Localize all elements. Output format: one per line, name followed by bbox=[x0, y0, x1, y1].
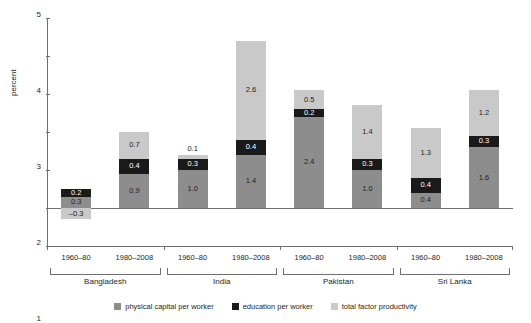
segment-value-label: 0.3 bbox=[479, 137, 489, 145]
segment-value-label: 1.6 bbox=[479, 174, 489, 182]
group-bracket bbox=[283, 268, 394, 275]
category-tick bbox=[512, 246, 513, 250]
stacked-bar-chart: –1012345 0.30.2–0.30.90.40.71.00.30.11.4… bbox=[0, 0, 531, 323]
segment-value-label: 0.2 bbox=[71, 189, 81, 197]
legend-item[interactable]: physical capital per worker bbox=[114, 302, 213, 311]
segment-value-label: 0.4 bbox=[420, 181, 430, 189]
plot-area: –1012345 0.30.2–0.30.90.40.71.00.30.11.4… bbox=[47, 18, 513, 246]
bar-segment[interactable]: 0.3 bbox=[469, 136, 499, 147]
segment-value-label: 0.9 bbox=[129, 187, 139, 195]
y-axis-title: percent bbox=[9, 69, 18, 96]
category-tick bbox=[397, 246, 398, 250]
period-label: 1960–80 bbox=[280, 253, 338, 262]
segment-value-label: 1.4 bbox=[246, 177, 256, 185]
group-label: Sri Lanka bbox=[400, 277, 511, 287]
segment-value-label: 0.1 bbox=[178, 145, 208, 153]
bar-segment[interactable]: 1.4 bbox=[352, 105, 382, 158]
period-label: 1980–2008 bbox=[455, 253, 513, 262]
period-label: 1960–80 bbox=[47, 253, 105, 262]
category-tick bbox=[47, 246, 48, 250]
period-label: 1980–2008 bbox=[222, 253, 280, 262]
legend-swatch-icon bbox=[232, 303, 239, 310]
y-tick: 4 bbox=[46, 56, 50, 57]
legend-item[interactable]: education per worker bbox=[232, 302, 313, 311]
y-tick-label: 3 bbox=[37, 166, 41, 167]
segment-value-label: 1.0 bbox=[187, 185, 197, 193]
bar-stack[interactable]: 0.30.2–0.3 bbox=[61, 18, 91, 246]
bar-segment[interactable]: 0.4 bbox=[411, 178, 441, 193]
legend-swatch-icon bbox=[331, 303, 338, 310]
y-tick: 0 bbox=[46, 208, 50, 209]
bar-segment[interactable]: 0.4 bbox=[236, 140, 266, 155]
bar-segment[interactable]: 0.7 bbox=[119, 132, 149, 159]
bar-segment[interactable]: 0.2 bbox=[294, 109, 324, 117]
bar-stack[interactable]: 0.40.41.3 bbox=[411, 18, 441, 246]
y-tick: 3 bbox=[46, 94, 50, 95]
bar-segment[interactable]: 1.0 bbox=[352, 170, 382, 208]
zero-baseline bbox=[47, 208, 513, 209]
bar-segment[interactable] bbox=[178, 155, 208, 159]
segment-value-label: 1.4 bbox=[362, 128, 372, 136]
bar-segment[interactable]: 0.5 bbox=[294, 90, 324, 109]
bar-segment[interactable]: 0.3 bbox=[178, 159, 208, 170]
bar-segment[interactable]: 1.4 bbox=[236, 155, 266, 208]
bar-stack[interactable]: 2.40.20.5 bbox=[294, 18, 324, 246]
bar-segment[interactable]: 0.4 bbox=[411, 193, 441, 208]
y-tick-label: 2 bbox=[37, 242, 41, 243]
legend-label: physical capital per worker bbox=[125, 302, 213, 311]
legend-label: total factor productivity bbox=[342, 302, 417, 311]
segment-value-label: 0.3 bbox=[362, 160, 372, 168]
segment-value-label: 1.2 bbox=[479, 109, 489, 117]
bar-stack[interactable]: 0.90.40.7 bbox=[119, 18, 149, 246]
bar-stack[interactable]: 1.00.31.4 bbox=[352, 18, 382, 246]
group-bracket bbox=[400, 268, 511, 275]
bar-stack[interactable]: 1.40.42.6 bbox=[236, 18, 266, 246]
bar-segment[interactable]: 2.4 bbox=[294, 117, 324, 208]
segment-value-label: 0.5 bbox=[304, 96, 314, 104]
segment-value-label: 0.4 bbox=[246, 143, 256, 151]
bar-segment[interactable]: 0.4 bbox=[119, 159, 149, 174]
legend-item[interactable]: total factor productivity bbox=[331, 302, 417, 311]
legend-label: education per worker bbox=[243, 302, 313, 311]
bar-segment[interactable]: 1.3 bbox=[411, 128, 441, 177]
segment-value-label: 0.4 bbox=[420, 196, 430, 204]
bar-segment[interactable]: 2.6 bbox=[236, 41, 266, 140]
y-tick-label: 5 bbox=[37, 14, 41, 15]
y-tick: 2 bbox=[46, 132, 50, 133]
bar-segment[interactable]: 0.9 bbox=[119, 174, 149, 208]
bar-segment[interactable]: 0.2 bbox=[61, 189, 91, 197]
bar-segment[interactable]: –0.3 bbox=[61, 208, 91, 219]
segment-value-label: 2.4 bbox=[304, 158, 314, 166]
segment-value-label: –0.3 bbox=[69, 210, 84, 218]
segment-value-label: 0.2 bbox=[304, 109, 314, 117]
bar-segment[interactable]: 1.0 bbox=[178, 170, 208, 208]
y-tick-label: 4 bbox=[37, 90, 41, 91]
segment-value-label: 0.3 bbox=[71, 198, 81, 206]
segment-value-label: 2.6 bbox=[246, 86, 256, 94]
y-tick-label: 1 bbox=[37, 318, 41, 319]
group-label: Pakistan bbox=[283, 277, 394, 287]
segment-value-label: 0.7 bbox=[129, 141, 139, 149]
period-label: 1980–2008 bbox=[105, 253, 163, 262]
bar-segment[interactable]: 0.3 bbox=[352, 159, 382, 170]
chart-legend: physical capital per workereducation per… bbox=[0, 302, 531, 311]
group-bracket bbox=[50, 268, 161, 275]
group-bracket bbox=[167, 268, 278, 275]
category-tick bbox=[280, 246, 281, 250]
y-tick: 1 bbox=[46, 170, 50, 171]
bar-segment[interactable]: 1.2 bbox=[469, 90, 499, 136]
category-tick bbox=[164, 246, 165, 250]
category-axis-ticks bbox=[47, 246, 513, 247]
bar-segment[interactable]: 1.6 bbox=[469, 147, 499, 208]
bar-segment[interactable]: 0.3 bbox=[61, 197, 91, 208]
segment-value-label: 1.3 bbox=[420, 149, 430, 157]
group-label: India bbox=[167, 277, 278, 287]
period-label: 1960–80 bbox=[397, 253, 455, 262]
bar-stack[interactable]: 1.60.31.2 bbox=[469, 18, 499, 246]
y-tick: 5 bbox=[46, 18, 50, 19]
legend-swatch-icon bbox=[114, 303, 121, 310]
bar-stack[interactable]: 1.00.30.1 bbox=[178, 18, 208, 246]
period-label: 1980–2008 bbox=[338, 253, 396, 262]
group-label: Bangladesh bbox=[50, 277, 161, 287]
segment-value-label: 1.0 bbox=[362, 185, 372, 193]
